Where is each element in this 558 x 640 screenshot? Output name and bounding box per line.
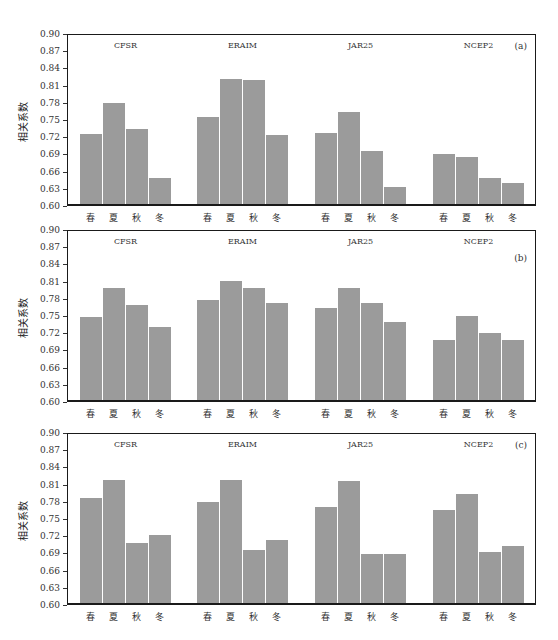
bar xyxy=(456,316,478,401)
y-tick-label: 0.69 xyxy=(22,548,60,558)
bar xyxy=(433,154,455,204)
bar xyxy=(361,554,383,603)
y-tick-mark xyxy=(63,402,67,403)
plot-area: CFSRERAIMJAR25NCEP2(b) xyxy=(67,230,536,402)
x-tick-label: 冬 xyxy=(501,211,523,224)
y-tick-label: 0.72 xyxy=(22,531,60,541)
x-tick-label: 夏 xyxy=(102,610,124,623)
group-label: CFSR xyxy=(80,237,171,246)
x-tick-label: 春 xyxy=(314,407,336,420)
bar xyxy=(149,327,171,400)
bar xyxy=(315,133,337,204)
group-label: ERAIM xyxy=(197,41,288,50)
x-tick-label: 秋 xyxy=(125,610,147,623)
bar xyxy=(315,507,337,603)
bar xyxy=(220,79,242,204)
y-tick-label: 0.66 xyxy=(22,167,60,177)
x-tick-label: 春 xyxy=(79,211,101,224)
bar xyxy=(361,303,383,400)
x-tick-label: 春 xyxy=(79,407,101,420)
y-tick-label: 0.63 xyxy=(22,380,60,390)
y-tick-label: 0.66 xyxy=(22,566,60,576)
group-label: ERAIM xyxy=(197,440,288,449)
y-tick-label: 0.69 xyxy=(22,345,60,355)
bar xyxy=(502,546,524,603)
x-tick-label: 秋 xyxy=(242,407,264,420)
y-tick-label: 0.90 xyxy=(22,225,60,235)
bar xyxy=(80,498,102,603)
x-tick-label: 冬 xyxy=(383,211,405,224)
y-tick-label: 0.60 xyxy=(22,201,60,211)
bar xyxy=(338,112,360,204)
x-tick-label: 夏 xyxy=(337,610,359,623)
x-tick-label: 春 xyxy=(432,211,454,224)
x-tick-label: 冬 xyxy=(265,211,287,224)
panel-label: (b) xyxy=(514,253,527,263)
x-tick-label: 冬 xyxy=(265,610,287,623)
x-tick-label: 冬 xyxy=(148,407,170,420)
bar xyxy=(433,340,455,400)
bar xyxy=(126,543,148,603)
bar xyxy=(220,480,242,603)
x-tick-label: 冬 xyxy=(148,610,170,623)
x-tick-label: 春 xyxy=(79,610,101,623)
bar xyxy=(338,288,360,400)
panel-label: (a) xyxy=(515,41,527,51)
y-tick-label: 0.69 xyxy=(22,149,60,159)
bar xyxy=(80,134,102,204)
bar xyxy=(103,103,125,204)
x-tick-label: 春 xyxy=(196,610,218,623)
x-tick-label: 秋 xyxy=(242,610,264,623)
bar xyxy=(266,540,288,603)
x-tick-label: 秋 xyxy=(360,610,382,623)
x-tick-label: 夏 xyxy=(337,211,359,224)
x-tick-label: 冬 xyxy=(265,407,287,420)
bar xyxy=(315,308,337,400)
bar xyxy=(479,333,501,400)
x-tick-label: 春 xyxy=(314,211,336,224)
plot-area: CFSRERAIMJAR25NCEP2(c) xyxy=(67,433,536,605)
group-label: NCEP2 xyxy=(433,440,524,449)
bar xyxy=(479,552,501,603)
bar xyxy=(384,322,406,400)
x-tick-label: 秋 xyxy=(478,610,500,623)
bar xyxy=(502,183,524,204)
y-tick-label: 0.78 xyxy=(22,98,60,108)
x-tick-label: 夏 xyxy=(102,407,124,420)
bar xyxy=(103,480,125,603)
x-tick-label: 夏 xyxy=(455,610,477,623)
bar xyxy=(197,300,219,400)
bar xyxy=(479,178,501,204)
x-tick-label: 秋 xyxy=(125,211,147,224)
bar xyxy=(126,305,148,400)
x-tick-label: 冬 xyxy=(501,610,523,623)
bar xyxy=(197,117,219,204)
x-tick-label: 秋 xyxy=(125,407,147,420)
x-tick-label: 秋 xyxy=(360,211,382,224)
x-tick-label: 春 xyxy=(432,610,454,623)
y-tick-label: 0.66 xyxy=(22,363,60,373)
y-tick-label: 0.90 xyxy=(22,29,60,39)
bar xyxy=(103,288,125,400)
y-tick-label: 0.87 xyxy=(22,46,60,56)
bar xyxy=(126,129,148,204)
bar xyxy=(243,288,265,400)
y-tick-label: 0.84 xyxy=(22,259,60,269)
y-tick-label: 0.75 xyxy=(22,311,60,321)
bar xyxy=(384,554,406,603)
y-tick-label: 0.78 xyxy=(22,294,60,304)
y-tick-label: 0.75 xyxy=(22,115,60,125)
y-tick-label: 0.84 xyxy=(22,63,60,73)
group-label: CFSR xyxy=(80,41,171,50)
group-label: NCEP2 xyxy=(433,41,524,50)
y-tick-label: 0.63 xyxy=(22,583,60,593)
x-tick-label: 夏 xyxy=(219,610,241,623)
x-tick-label: 冬 xyxy=(501,407,523,420)
x-tick-label: 夏 xyxy=(337,407,359,420)
x-tick-label: 秋 xyxy=(478,407,500,420)
bar xyxy=(266,303,288,400)
bar xyxy=(456,494,478,603)
y-tick-label: 0.72 xyxy=(22,132,60,142)
group-label: NCEP2 xyxy=(433,237,524,246)
y-tick-label: 0.87 xyxy=(22,242,60,252)
